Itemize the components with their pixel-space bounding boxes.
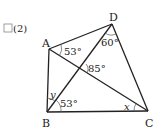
segment-AB <box>47 49 49 112</box>
angle-label-CAD: 53° <box>64 46 82 57</box>
segment-BC <box>47 111 148 112</box>
angle-label-y: y <box>49 89 56 100</box>
angle-label-ADB: 60° <box>101 37 119 48</box>
point-label-C: C <box>145 117 153 130</box>
angle-label-x: x <box>124 101 130 112</box>
angle-arc-ADB <box>105 33 116 35</box>
point-label-D: D <box>109 11 118 24</box>
angle-arc-ACB <box>134 104 136 112</box>
geometry-diagram: (2) A B C D 53° 60° 85° 53° y x <box>0 0 165 134</box>
point-label-B: B <box>42 117 50 130</box>
angle-label-intersection: 85° <box>88 63 106 74</box>
problem-number: (2) <box>13 23 27 34</box>
checkbox-icon[interactable] <box>4 24 12 32</box>
point-label-A: A <box>41 37 51 50</box>
angle-label-DBC: 53° <box>60 98 78 109</box>
angle-arc-CAD <box>60 45 62 56</box>
